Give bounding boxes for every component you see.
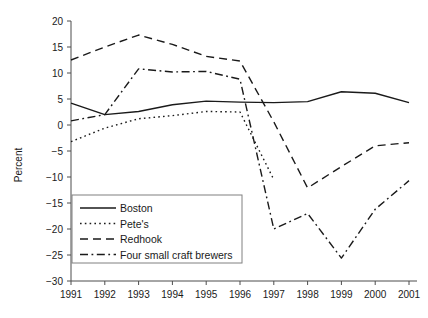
y-tick-label: −15	[46, 198, 63, 209]
y-tick-label: 15	[52, 42, 64, 53]
y-tick-label: −5	[52, 146, 64, 157]
legend-label: Four small craft brewers	[120, 249, 233, 261]
y-tick-label: 0	[57, 120, 63, 131]
x-tick-label: 1997	[263, 289, 286, 300]
y-tick-label: −20	[46, 224, 63, 235]
y-tick-label: −10	[46, 172, 63, 183]
x-tick-label-group: 1991199219931994199519961997199819992000…	[60, 289, 421, 300]
y-tick-label: 10	[52, 68, 64, 79]
chart-legend: BostonPete'sRedhookFour small craft brew…	[72, 195, 242, 263]
legend-label: Boston	[120, 202, 153, 214]
y-axis-title: Percent	[13, 148, 24, 183]
x-tick-label: 1996	[229, 289, 252, 300]
x-axis: 1991199219931994199519961997199819992000…	[60, 281, 421, 300]
x-tick-label: 1998	[296, 289, 319, 300]
legend-label: Redhook	[120, 233, 163, 245]
chart-canvas: 20151050−5−10−15−20−25−30 Percent 199119…	[0, 0, 428, 318]
y-tick-label: −30	[46, 276, 63, 287]
y-tick-group	[67, 21, 71, 281]
series-line-pete-s	[71, 111, 274, 179]
x-tick-label: 1992	[94, 289, 117, 300]
y-tick-label: 5	[57, 94, 63, 105]
x-tick-label: 1994	[161, 289, 184, 300]
series-line-boston	[71, 92, 409, 115]
x-tick-group	[71, 281, 409, 285]
x-tick-label: 1991	[60, 289, 83, 300]
x-tick-label: 1995	[195, 289, 218, 300]
x-tick-label: 2001	[398, 289, 421, 300]
x-tick-label: 2000	[364, 289, 387, 300]
y-tick-label: 20	[52, 16, 64, 27]
y-axis: 20151050−5−10−15−20−25−30 Percent	[13, 16, 71, 287]
y-tick-label-group: 20151050−5−10−15−20−25−30	[46, 16, 63, 287]
x-tick-label: 1993	[127, 289, 150, 300]
y-tick-label: −25	[46, 250, 63, 261]
x-tick-label: 1999	[330, 289, 353, 300]
legend-label: Pete's	[120, 218, 149, 230]
line-chart: 20151050−5−10−15−20−25−30 Percent 199119…	[0, 0, 428, 318]
